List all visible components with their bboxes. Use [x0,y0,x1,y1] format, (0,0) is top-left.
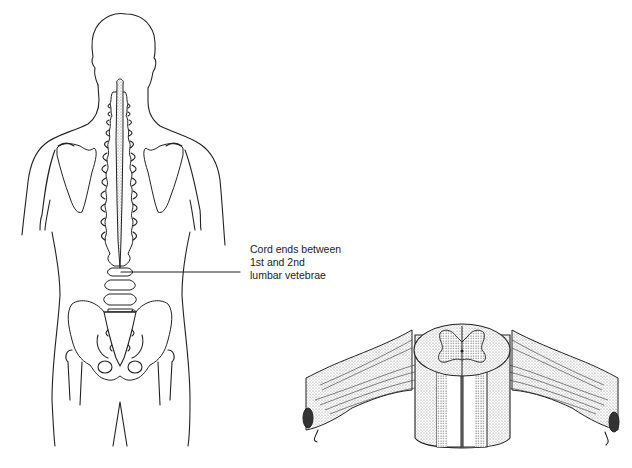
annotation-label: Cord ends between 1st and 2nd lumbar vet… [250,243,341,282]
right-root-cut-end [609,412,619,432]
annotation-line-3: lumbar vetebrae [250,269,341,282]
illustration-canvas [0,0,632,468]
spinal-cord-segment [303,324,619,448]
lumbar-vertebrae [104,268,138,314]
annotation-line-2: 1st and 2nd [250,256,341,269]
torso-back-view [22,14,240,446]
pelvis [68,301,172,380]
spinal-cord-figure: Cord ends between 1st and 2nd lumbar vet… [0,0,632,468]
annotation-line-1: Cord ends between [250,243,341,256]
left-root-cut-end [303,408,313,428]
